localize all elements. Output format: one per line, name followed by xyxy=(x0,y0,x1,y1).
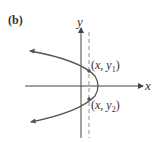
curve-arrow-top-icon xyxy=(29,49,35,54)
x-axis-label: x xyxy=(145,78,151,94)
y-axis-label: y xyxy=(77,14,83,30)
point-2-label: (x, y2) xyxy=(91,98,120,114)
curve-arrow-bottom-icon xyxy=(30,119,36,124)
point-1-label: (x, y1) xyxy=(91,58,120,74)
